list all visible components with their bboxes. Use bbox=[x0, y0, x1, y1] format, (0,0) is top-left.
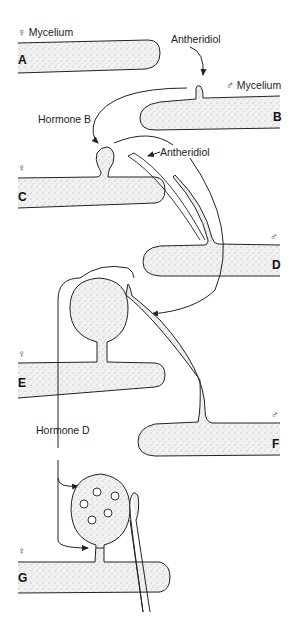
label-antheridiol-1: Antheridiol bbox=[171, 34, 221, 45]
label-antheridiol-2: Antheridiol bbox=[160, 147, 210, 158]
hypha-c bbox=[18, 147, 165, 208]
arrow-antheridiol-b bbox=[190, 47, 203, 75]
female-symbol-g: ♀ bbox=[18, 546, 26, 556]
male-symbol-f: ♂ bbox=[271, 410, 279, 420]
female-symbol-e: ♀ bbox=[18, 349, 26, 359]
panel-label-e: E bbox=[18, 377, 26, 389]
label-hormone-b: Hormone B bbox=[38, 114, 91, 125]
panel-label-d: D bbox=[272, 259, 281, 271]
panel-label-a: A bbox=[18, 54, 27, 66]
panel-label-c: C bbox=[18, 191, 27, 203]
diagram-canvas bbox=[0, 0, 294, 639]
arrow-antheridiol-d bbox=[148, 152, 160, 156]
label-female-mycelium: ♀ Mycelium bbox=[18, 27, 73, 38]
hypha-a bbox=[18, 40, 160, 73]
label-hormone-d: Hormone D bbox=[36, 425, 90, 436]
label-male-mycelium: ♂ Mycelium bbox=[226, 80, 281, 91]
hypha-e bbox=[18, 278, 165, 398]
male-symbol-d: ♂ bbox=[270, 232, 278, 242]
panel-label-b: B bbox=[273, 111, 282, 123]
hypha-b bbox=[140, 86, 280, 130]
antheridium-g bbox=[130, 493, 150, 612]
panel-label-f: F bbox=[272, 438, 279, 450]
arrow-c-to-e bbox=[114, 136, 173, 145]
female-symbol-c: ♀ bbox=[18, 163, 26, 173]
panel-label-g: G bbox=[18, 572, 27, 584]
